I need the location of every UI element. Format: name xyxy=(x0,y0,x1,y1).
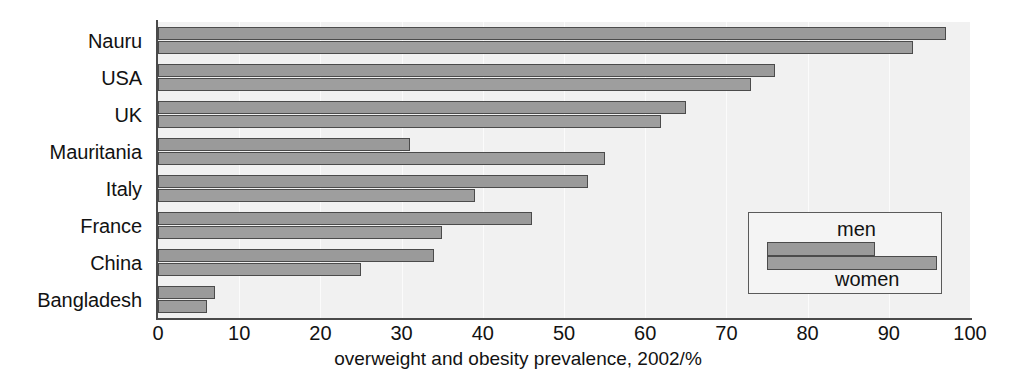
bar-bangladesh-women xyxy=(158,300,207,313)
legend-label-men: men xyxy=(837,219,876,239)
x-tick-0: 0 xyxy=(152,322,163,344)
category-label-france: France xyxy=(0,216,142,236)
y-axis-line xyxy=(156,20,158,320)
x-tick-20: 20 xyxy=(309,322,331,344)
legend-swatch-men xyxy=(767,242,875,256)
bar-china-women xyxy=(158,263,361,276)
category-label-uk: UK xyxy=(0,105,142,125)
category-label-italy: Italy xyxy=(0,179,142,199)
bar-italy-men xyxy=(158,175,588,188)
x-tick-70: 70 xyxy=(715,322,737,344)
legend: men women xyxy=(748,212,942,294)
category-axis-labels: NauruUSAUKMauritaniaItalyFranceChinaBang… xyxy=(0,22,150,318)
bar-usa-men xyxy=(158,64,775,77)
x-tick-10: 10 xyxy=(228,322,250,344)
category-label-mauritania: Mauritania xyxy=(0,142,142,162)
bar-china-men xyxy=(158,249,434,262)
x-axis-line xyxy=(156,318,972,320)
category-label-bangladesh: Bangladesh xyxy=(0,290,142,310)
bar-mauritania-men xyxy=(158,138,410,151)
x-tick-90: 90 xyxy=(878,322,900,344)
category-label-china: China xyxy=(0,253,142,273)
bar-mauritania-women xyxy=(158,152,605,165)
bar-france-women xyxy=(158,226,442,239)
x-axis-title: overweight and obesity prevalence, 2002/… xyxy=(0,348,1016,370)
x-tick-60: 60 xyxy=(634,322,656,344)
bar-france-men xyxy=(158,212,532,225)
x-tick-80: 80 xyxy=(796,322,818,344)
x-axis-tick-labels: 0102030405060708090100 xyxy=(0,322,1016,348)
x-tick-30: 30 xyxy=(390,322,412,344)
bar-uk-men xyxy=(158,101,686,114)
category-label-usa: USA xyxy=(0,68,142,88)
bar-chart: NauruUSAUKMauritaniaItalyFranceChinaBang… xyxy=(0,0,1016,385)
x-tick-100: 100 xyxy=(953,322,986,344)
x-tick-50: 50 xyxy=(553,322,575,344)
bar-uk-women xyxy=(158,115,661,128)
bar-usa-women xyxy=(158,78,751,91)
x-tick-40: 40 xyxy=(472,322,494,344)
category-label-nauru: Nauru xyxy=(0,31,142,51)
bar-nauru-women xyxy=(158,41,913,54)
legend-label-women: women xyxy=(835,269,899,289)
bar-italy-women xyxy=(158,189,475,202)
bar-bangladesh-men xyxy=(158,286,215,299)
bar-nauru-men xyxy=(158,27,946,40)
